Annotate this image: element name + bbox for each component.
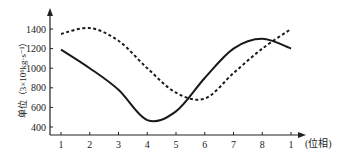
series-lines (61, 28, 291, 121)
axes (47, 8, 306, 138)
x-tick-label: 7 (231, 139, 236, 150)
x-tick-label: 4 (145, 139, 150, 150)
y-tick-label: 400 (31, 122, 46, 133)
y-tick-label: 1000 (26, 63, 46, 74)
y-tick-label: 600 (31, 102, 46, 113)
x-tick-label: 2 (87, 139, 92, 150)
y-tick-label: 1400 (26, 24, 46, 35)
x-tick-label: 6 (202, 139, 207, 150)
x-tick-label: 8 (260, 139, 265, 150)
x-tick-label: 5 (174, 139, 179, 150)
axis-labels: 400600800100012001400123456781(位相)单位（3×1… (17, 24, 332, 151)
y-tick-label: 800 (31, 82, 46, 93)
chart-svg: 400600800100012001400123456781(位相)单位（3×1… (0, 0, 339, 159)
x-tick-label: 1 (59, 139, 64, 150)
solid-series-line (61, 39, 291, 121)
y-tick-label: 1200 (26, 43, 46, 54)
y-axis-label: 单位（3×10⁶kg·s⁻¹） (17, 38, 28, 119)
x-axis-label: (位相) (305, 137, 332, 150)
x-tick-label: 3 (116, 139, 121, 150)
chart: 400600800100012001400123456781(位相)单位（3×1… (0, 0, 339, 159)
y-axis-arrow-icon (47, 8, 53, 16)
x-tick-label: 1 (289, 139, 294, 150)
